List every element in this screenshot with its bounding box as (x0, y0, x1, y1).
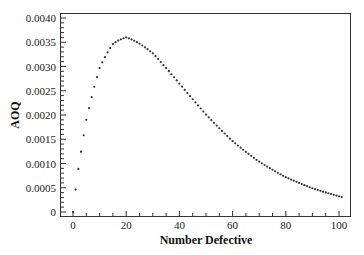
data-point (261, 162, 263, 164)
data-point (221, 130, 223, 132)
data-point (75, 188, 77, 190)
data-point (93, 86, 95, 88)
data-point (141, 44, 143, 46)
data-point (85, 119, 87, 121)
data-point (295, 181, 297, 183)
y-tick-label: 0.0035 (26, 36, 57, 48)
data-point (271, 169, 273, 171)
data-point (176, 79, 178, 81)
x-tick-label: 0 (70, 219, 76, 231)
y-tick-label: 0.0030 (26, 61, 57, 73)
data-point (106, 51, 108, 53)
y-tick-label: 0.0040 (26, 12, 57, 24)
data-point (72, 211, 74, 213)
data-point (160, 61, 162, 63)
data-point (112, 43, 114, 45)
data-point (99, 67, 101, 69)
data-point (189, 95, 191, 97)
data-point (226, 135, 228, 137)
data-point (277, 172, 279, 174)
data-point (338, 195, 340, 197)
data-point (306, 185, 308, 187)
data-point (303, 184, 305, 186)
data-point (178, 82, 180, 84)
data-point (279, 173, 281, 175)
data-point (269, 167, 271, 169)
data-point (322, 191, 324, 193)
x-tick-label: 60 (227, 219, 239, 231)
y-tick-label: 0.0010 (26, 158, 57, 170)
data-point (104, 56, 106, 58)
data-point (130, 38, 132, 40)
y-tick-label: 0.0005 (26, 182, 57, 194)
data-point (317, 189, 319, 191)
y-axis: 00.00050.00100.00150.00200.00250.00300.0… (26, 12, 66, 218)
data-point (330, 193, 332, 195)
data-point (314, 188, 316, 190)
data-point (266, 166, 268, 168)
data-point (138, 43, 140, 45)
data-point (197, 104, 199, 106)
aoq-chart: 00.00050.00100.00150.00200.00250.00300.0… (0, 0, 364, 255)
data-point (213, 122, 215, 124)
data-point (170, 73, 172, 75)
y-tick-label: 0 (51, 206, 57, 218)
data-series-aoq (72, 36, 343, 213)
data-point (290, 178, 292, 180)
data-point (114, 41, 116, 43)
data-point (162, 64, 164, 66)
x-tick-label: 20 (121, 219, 133, 231)
data-point (232, 140, 234, 142)
data-point (117, 39, 119, 41)
data-point (109, 47, 111, 49)
data-point (327, 192, 329, 194)
data-point (293, 180, 295, 182)
data-point (333, 194, 335, 196)
data-point (146, 48, 148, 50)
data-point (149, 50, 151, 52)
data-point (285, 176, 287, 178)
data-point (192, 98, 194, 100)
data-point (157, 58, 159, 60)
data-point (319, 190, 321, 192)
data-point (88, 107, 90, 109)
y-tick-label: 0.0015 (26, 133, 57, 145)
data-point (263, 164, 265, 166)
data-point (258, 161, 260, 163)
data-point (234, 142, 236, 144)
data-point (282, 175, 284, 177)
data-point (184, 89, 186, 91)
x-axis: 020406080100 (70, 211, 348, 231)
x-tick-label: 80 (280, 219, 292, 231)
data-point (224, 132, 226, 134)
data-point (250, 155, 252, 157)
data-point (309, 186, 311, 188)
data-point (80, 151, 82, 153)
data-point (186, 92, 188, 94)
y-tick-label: 0.0020 (26, 109, 57, 121)
data-point (218, 127, 220, 129)
data-point (125, 36, 127, 38)
data-point (101, 61, 103, 63)
data-point (168, 70, 170, 72)
data-point (253, 157, 255, 159)
data-point (136, 41, 138, 43)
data-point (120, 38, 122, 40)
data-point (242, 149, 244, 151)
data-point (274, 170, 276, 172)
data-point (194, 101, 196, 103)
data-point (122, 37, 124, 39)
y-tick-label: 0.0025 (26, 85, 57, 97)
data-point (91, 96, 93, 98)
x-tick-label: 40 (174, 219, 186, 231)
data-point (335, 194, 337, 196)
data-point (239, 147, 241, 149)
data-point (83, 134, 85, 136)
data-point (152, 52, 154, 54)
data-point (287, 177, 289, 179)
data-point (205, 113, 207, 115)
data-point (229, 138, 231, 140)
data-point (341, 196, 343, 198)
data-point (245, 151, 247, 153)
data-point (200, 107, 202, 109)
